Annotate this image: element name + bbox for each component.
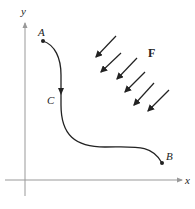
point-a <box>41 39 45 43</box>
x-axis-label: x <box>184 174 190 186</box>
direction-arrow-icon <box>58 88 64 95</box>
y-axis-label: y <box>20 5 26 17</box>
field-label: F <box>148 46 155 60</box>
vector-field-diagram: y x A C B F <box>0 0 195 209</box>
point-b <box>160 161 164 165</box>
force-field-arrows <box>96 36 169 111</box>
path-curve <box>41 39 164 165</box>
point-a-label: A <box>37 26 45 38</box>
point-b-label: B <box>166 150 173 162</box>
point-c-label: C <box>47 94 55 106</box>
